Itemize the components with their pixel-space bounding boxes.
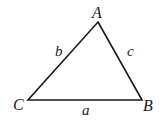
side-label-a: a (82, 102, 90, 118)
triangle-abc (28, 22, 142, 100)
side-label-c: c (127, 43, 134, 59)
triangle-diagram: A B C a b c (0, 0, 160, 122)
vertex-label-c: C (13, 96, 24, 113)
vertex-label-a: A (91, 4, 102, 21)
side-label-b: b (55, 43, 63, 59)
vertex-label-b: B (143, 97, 153, 114)
